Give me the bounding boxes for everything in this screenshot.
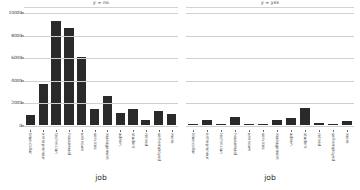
gridline — [24, 81, 178, 82]
panel-title-yes: y = yes — [186, 1, 354, 6]
bar[interactable] — [26, 115, 35, 125]
facet-panel-yes: y = yes — [186, 7, 354, 126]
x-tick-mark — [235, 130, 236, 132]
x-tick-label: blue-collar — [191, 133, 195, 154]
panel-title-no: y = no — [24, 1, 178, 6]
x-tick-label: housemaid — [67, 133, 71, 155]
bar[interactable] — [64, 28, 73, 125]
x-tick-label: management — [275, 133, 279, 160]
bar[interactable] — [128, 109, 137, 125]
x-tick-mark — [319, 130, 320, 132]
bar[interactable] — [202, 120, 212, 125]
x-tick-label: retired — [317, 133, 321, 146]
x-tick-mark — [30, 130, 31, 132]
bar-cell — [312, 13, 326, 125]
bar[interactable] — [154, 111, 163, 125]
gridline — [186, 81, 354, 82]
bar-cell — [228, 13, 242, 125]
bar[interactable] — [90, 109, 99, 125]
x-tick-labels-no: blue-collarentrepreneurtechnicianhousema… — [24, 130, 178, 172]
bar-cell — [242, 13, 256, 125]
bar[interactable] — [244, 124, 254, 125]
x-tick-cell: entrepreneur — [37, 130, 50, 172]
bar[interactable] — [39, 84, 48, 125]
plot-area-no — [24, 13, 178, 126]
bar-cell — [186, 13, 200, 125]
x-tick-mark — [221, 130, 222, 132]
x-tick-cell: services — [88, 130, 101, 172]
bar[interactable] — [258, 124, 268, 125]
bar-cell — [50, 13, 63, 125]
x-tick-label: student — [303, 133, 307, 148]
x-tick-label: entrepreneur — [205, 133, 209, 159]
bar[interactable] — [286, 118, 296, 125]
bar[interactable] — [300, 108, 310, 125]
bar[interactable] — [230, 117, 240, 125]
x-tick-label: admin. — [118, 133, 122, 147]
x-tick-mark — [159, 130, 160, 132]
x-tick-mark — [82, 130, 83, 132]
x-tick-cell: self-employed — [326, 130, 340, 172]
bar-cell — [127, 13, 140, 125]
bar[interactable] — [116, 113, 125, 125]
bar-cell — [75, 13, 88, 125]
bar[interactable] — [314, 123, 324, 125]
x-tick-mark — [146, 130, 147, 132]
bar-cell — [62, 13, 75, 125]
x-tick-cell: housemaid — [62, 130, 75, 172]
bar[interactable] — [141, 120, 150, 125]
x-axis-title-no: job — [24, 174, 178, 182]
x-tick-label: blue-collar — [28, 133, 32, 154]
bar[interactable] — [51, 21, 60, 125]
x-tick-label: technician — [54, 133, 58, 154]
x-tick-cell: technician — [214, 130, 228, 172]
x-tick-mark — [172, 130, 173, 132]
bar-cell — [200, 13, 214, 125]
x-tick-cell: technician — [50, 130, 63, 172]
bar-cell — [214, 13, 228, 125]
bar[interactable] — [103, 96, 112, 125]
chart-root: 0200040006000800010000 y = no y = yes bl… — [0, 0, 360, 190]
x-tick-mark — [133, 130, 134, 132]
bar-cell — [37, 13, 50, 125]
gridline — [24, 58, 178, 59]
bar[interactable] — [77, 57, 86, 125]
x-tick-label: admin. — [289, 133, 293, 147]
gridline — [24, 13, 178, 14]
x-tick-label: student — [131, 133, 135, 148]
y-axis: 0200040006000800010000 — [0, 0, 24, 130]
gridline — [186, 103, 354, 104]
bar[interactable] — [328, 124, 338, 125]
x-tick-cell: student — [298, 130, 312, 172]
x-tick-label: housemaid — [233, 133, 237, 155]
x-tick-mark — [291, 130, 292, 132]
x-tick-label: more — [169, 133, 173, 143]
bar[interactable] — [272, 120, 282, 125]
x-tick-label: services — [261, 133, 265, 149]
x-tick-cell: management — [101, 130, 114, 172]
gridline — [186, 126, 354, 127]
x-tick-label: self-employed — [157, 133, 161, 161]
x-tick-mark — [249, 130, 250, 132]
gridline — [24, 36, 178, 37]
plot-area-yes — [186, 13, 354, 126]
bar-cell — [256, 13, 270, 125]
x-tick-mark — [95, 130, 96, 132]
bar[interactable] — [167, 114, 176, 125]
x-tick-mark — [107, 130, 108, 132]
bar-cell — [152, 13, 165, 125]
bar[interactable] — [342, 121, 352, 125]
x-tick-label: management — [105, 133, 109, 160]
bar-group-yes — [186, 13, 354, 125]
facet-panel-no: y = no — [24, 7, 178, 126]
x-tick-mark — [305, 130, 306, 132]
bar-cell — [165, 13, 178, 125]
x-tick-cell: blue-collar — [24, 130, 37, 172]
x-tick-mark — [207, 130, 208, 132]
y-tick-label: 10000 — [9, 11, 22, 15]
x-tick-cell: student — [127, 130, 140, 172]
bar[interactable] — [216, 124, 226, 125]
x-tick-label: unknown — [80, 133, 84, 151]
bar[interactable] — [188, 124, 198, 125]
x-tick-label: unknown — [247, 133, 251, 151]
